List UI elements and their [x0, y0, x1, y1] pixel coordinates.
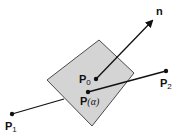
label-p1: P1 — [5, 121, 17, 134]
p2-subscript: 2 — [167, 82, 171, 91]
point-p0 — [94, 77, 98, 81]
diagram-svg — [0, 0, 184, 137]
point-p2 — [164, 69, 168, 73]
diagram-canvas: n P0 P(α) P2 P1 — [0, 0, 184, 137]
p1-subscript: 1 — [12, 125, 16, 134]
label-p-alpha: P(α) — [80, 96, 99, 107]
normal-label-text: n — [156, 5, 163, 17]
label-p0: P0 — [79, 74, 91, 87]
point-p1 — [10, 112, 14, 116]
p-alpha-close-paren: ) — [96, 96, 99, 107]
point-p-alpha — [86, 90, 90, 94]
p0-subscript: 0 — [86, 78, 90, 87]
label-p2: P2 — [160, 78, 172, 91]
line-segment-outer — [12, 99, 64, 114]
label-n: n — [156, 6, 163, 17]
